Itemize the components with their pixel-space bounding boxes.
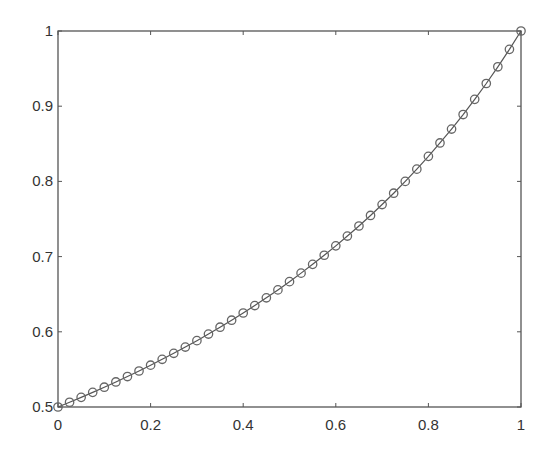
line-chart: 00.20.40.60.81 0.50.60.70.80.91	[0, 0, 548, 453]
x-tick-label: 1	[517, 416, 525, 433]
y-tick-label: 0.8	[32, 172, 53, 189]
y-tick-label: 0.7	[32, 248, 53, 265]
y-tick-label: 1	[45, 22, 53, 39]
x-tick-label: 0.4	[233, 416, 254, 433]
y-axis-tick-labels: 0.50.60.70.80.91	[32, 22, 53, 415]
y-tick-label: 0.6	[32, 323, 53, 340]
x-tick-label: 0.6	[325, 416, 346, 433]
y-tick-label: 0.9	[32, 97, 53, 114]
plot-area	[58, 31, 521, 407]
x-axis-tick-labels: 00.20.40.60.81	[54, 416, 525, 433]
x-tick-label: 0	[54, 416, 62, 433]
y-tick-label: 0.5	[32, 398, 53, 415]
x-tick-label: 0.8	[418, 416, 439, 433]
x-tick-label: 0.2	[140, 416, 161, 433]
